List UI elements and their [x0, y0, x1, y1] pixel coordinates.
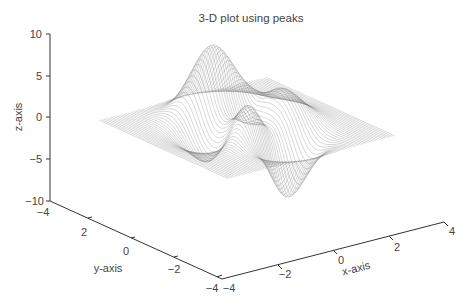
y-tick — [131, 237, 135, 238]
x-tick — [333, 250, 337, 254]
surface-plot: 3-D plot using peaks 10 5 0 −5 −10 z-axi… — [0, 0, 466, 305]
mesh-line — [247, 82, 376, 141]
z-tick-label: 10 — [30, 28, 42, 40]
surface-mesh — [99, 45, 395, 198]
y-tick — [88, 217, 92, 218]
mesh-line — [104, 119, 233, 177]
mesh-line — [266, 77, 395, 135]
chart-title: 3-D plot using peaks — [199, 12, 304, 24]
y-axis-label: y-axis — [94, 262, 123, 274]
y-tick-label: −4 — [206, 282, 219, 294]
y-tick-label: −2 — [168, 263, 181, 275]
z-tick-label: 0 — [36, 111, 42, 123]
y-tick — [174, 256, 178, 257]
x-axis-label: x-axis — [341, 259, 372, 278]
z-axis: 10 5 0 −5 −10 z-axis — [12, 28, 50, 207]
mesh-line — [263, 78, 392, 137]
mesh-line — [185, 45, 314, 197]
x-tick-label: 2 — [394, 241, 400, 253]
x-tick — [389, 236, 393, 240]
mesh-line — [180, 46, 309, 193]
z-tick-label: −5 — [29, 153, 42, 165]
y-tick-label: 0 — [123, 245, 129, 257]
x-tick-label: −2 — [279, 268, 292, 280]
y-tick-label: 2 — [81, 226, 87, 238]
y-tick — [217, 275, 222, 277]
mesh-line — [102, 120, 231, 179]
x-tick-label: −4 — [223, 282, 236, 294]
y-axis-line — [50, 201, 222, 279]
mesh-line — [118, 115, 247, 174]
x-tick-label: 4 — [449, 225, 455, 237]
x-axis: −4 −2 0 2 4 x-axis — [222, 222, 455, 294]
y-axis: −4 2 0 −2 −4 y-axis — [37, 201, 222, 294]
mesh-line — [259, 79, 388, 138]
z-axis-label: z-axis — [12, 102, 24, 131]
mesh-line — [261, 79, 390, 138]
mesh-line — [183, 45, 312, 195]
mesh-line — [125, 113, 254, 171]
x-tick — [444, 222, 448, 226]
y-tick-label: −4 — [37, 206, 50, 218]
z-tick-label: 5 — [36, 70, 42, 82]
mesh-line — [161, 82, 290, 165]
mesh-line — [121, 115, 250, 174]
